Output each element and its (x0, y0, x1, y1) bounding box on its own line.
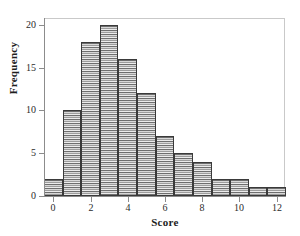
histogram-bar (81, 42, 100, 196)
y-axis-tick-mark (39, 153, 44, 154)
y-axis-line (44, 18, 45, 197)
y-axis-tick-mark (39, 68, 44, 69)
histogram-bar (118, 59, 137, 196)
y-axis-tick-mark (39, 25, 44, 26)
x-axis-tick-label: 8 (190, 203, 214, 213)
y-axis-tick-mark (39, 110, 44, 111)
y-axis-tick-label: 5 (0, 148, 36, 158)
histogram-figure: 05101520 024681012 Score Frequency (0, 0, 300, 236)
histogram-bar (100, 25, 119, 196)
histogram-bar (156, 136, 175, 196)
histogram-bar (249, 187, 268, 196)
x-axis-title: Score (44, 216, 286, 228)
x-axis-tick-label: 4 (116, 203, 140, 213)
y-axis-title: Frequency (7, 23, 19, 113)
histogram-bar (174, 153, 193, 196)
x-axis-tick-label: 0 (41, 203, 65, 213)
histogram-bar (63, 110, 82, 196)
x-axis-tick-label: 10 (227, 203, 251, 213)
y-axis-tick-mark (39, 196, 44, 197)
histogram-bar (137, 93, 156, 196)
x-axis-tick-label: 2 (79, 203, 103, 213)
x-axis-tick-label: 12 (265, 203, 289, 213)
bars-layer (0, 0, 300, 236)
y-axis-tick-label: 0 (0, 191, 36, 201)
histogram-bar (193, 162, 212, 196)
x-axis-tick-label: 6 (153, 203, 177, 213)
histogram-bar (267, 187, 286, 196)
histogram-bar (230, 179, 249, 196)
histogram-bar (212, 179, 231, 196)
histogram-bar (44, 179, 63, 196)
